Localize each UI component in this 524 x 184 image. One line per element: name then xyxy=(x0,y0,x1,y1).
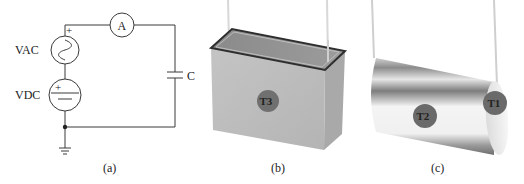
panel-b-box-capacitor xyxy=(211,0,345,150)
vac-label: VAC xyxy=(15,43,39,57)
junction-dot xyxy=(63,125,67,129)
marker-t3-label: T3 xyxy=(260,95,273,107)
cylinder-body xyxy=(371,58,494,155)
vdc-label: VDC xyxy=(15,88,40,102)
caption-a: (a) xyxy=(103,161,116,175)
dc-source-symbol xyxy=(49,79,81,111)
caption-c: (c) xyxy=(431,161,444,175)
capacitor-label: C xyxy=(187,69,195,83)
marker-t2-label: T2 xyxy=(417,110,430,122)
vac-polarity-label: + xyxy=(66,24,72,36)
caption-b: (b) xyxy=(271,161,285,175)
sine-wave-icon xyxy=(59,40,72,60)
lead-left xyxy=(372,0,374,58)
ammeter-label: A xyxy=(118,19,127,33)
lead-right xyxy=(494,0,497,86)
panel-c-cylinder-capacitor xyxy=(371,0,511,156)
marker-t1-label: T1 xyxy=(488,97,501,109)
figure: + + VAC VDC A C (a) T3 (b) T2 xyxy=(0,0,524,184)
vdc-polarity-label: + xyxy=(55,81,61,93)
